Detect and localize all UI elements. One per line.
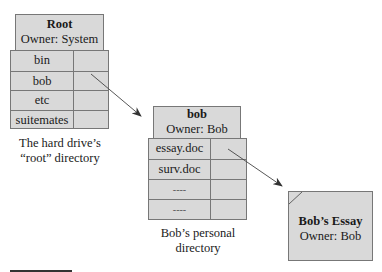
arrows-layer — [0, 0, 382, 272]
file-dog-ear-icon — [289, 192, 302, 204]
arrow-root-bob-to-bob-directory — [91, 74, 141, 116]
arrow-essay-doc-to-essay-file — [228, 149, 282, 186]
